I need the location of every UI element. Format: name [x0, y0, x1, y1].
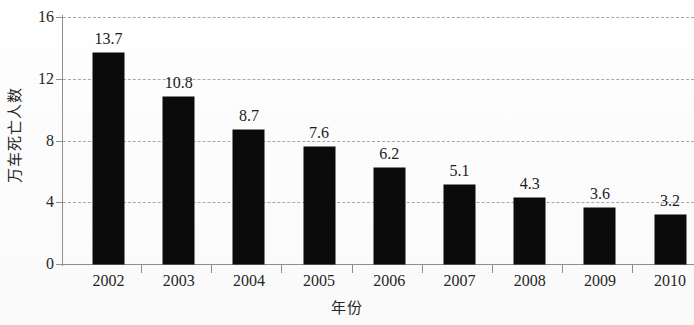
y-axis-tick: [56, 79, 63, 80]
bar: [444, 185, 475, 264]
gridline: [63, 141, 694, 142]
x-axis-tick: [211, 264, 212, 273]
y-axis-tick-label: 12: [20, 70, 54, 88]
x-axis-category-label: 2003: [163, 272, 195, 290]
x-axis-tick: [281, 264, 282, 273]
x-axis-tick: [492, 264, 493, 273]
x-axis-tick: [352, 264, 353, 273]
x-axis-category-label: 2008: [514, 272, 546, 290]
y-axis-tick: [56, 17, 63, 18]
bar-value-label: 3.6: [590, 185, 610, 203]
x-axis-tick: [422, 264, 423, 273]
y-axis-tick-label: 4: [20, 193, 54, 211]
y-axis-tick: [56, 141, 63, 142]
bar-value-label: 6.2: [379, 145, 399, 163]
x-axis-category-label: 2010: [654, 272, 686, 290]
x-axis-category-label: 2007: [444, 272, 476, 290]
bar: [584, 208, 615, 264]
plot-area: 048121613.710.88.77.66.25.14.33.63.2: [63, 17, 694, 264]
x-axis-category-label: 2006: [373, 272, 405, 290]
x-axis-tick: [141, 264, 142, 273]
bar: [514, 198, 545, 264]
bar-value-label: 7.6: [309, 124, 329, 142]
bar-value-label: 5.1: [450, 162, 470, 180]
y-axis-tick: [56, 202, 63, 203]
bar-chart-figure: 万车死亡人数 048121613.710.88.77.66.25.14.33.6…: [0, 0, 694, 325]
x-axis-line: [62, 264, 694, 265]
bar: [233, 130, 264, 264]
y-axis-tick-label: 16: [20, 8, 54, 26]
bar-value-label: 8.7: [239, 107, 259, 125]
x-axis-title: 年份: [0, 296, 694, 317]
bar-value-label: 4.3: [520, 175, 540, 193]
y-axis-tick-label: 0: [20, 255, 54, 273]
x-axis-category-label: 2009: [584, 272, 616, 290]
bar: [163, 97, 194, 264]
x-axis-tick: [562, 264, 563, 273]
bar: [304, 147, 335, 264]
bar: [655, 215, 686, 264]
x-axis-category-label: 2005: [303, 272, 335, 290]
x-axis-category-label: 2004: [233, 272, 265, 290]
bar-value-label: 10.8: [165, 74, 193, 92]
y-axis-tick: [56, 264, 63, 265]
x-axis-category-label: 2002: [93, 272, 125, 290]
bar-value-label: 13.7: [95, 30, 123, 48]
gridline: [63, 17, 694, 18]
bar: [93, 53, 124, 264]
bar: [374, 168, 405, 264]
x-axis-tick: [632, 264, 633, 273]
bar-value-label: 3.2: [660, 192, 680, 210]
gridline: [63, 79, 694, 80]
y-axis-tick-label: 8: [20, 132, 54, 150]
